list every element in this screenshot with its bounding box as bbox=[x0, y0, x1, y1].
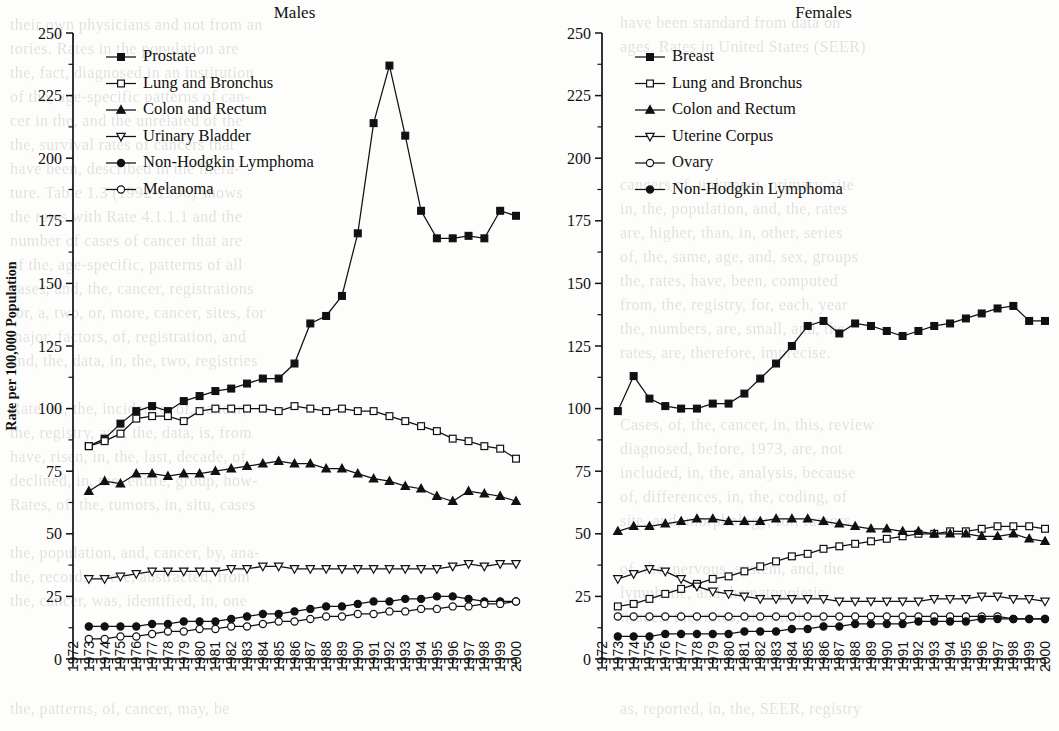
data-point-marker bbox=[291, 403, 298, 410]
data-point-marker bbox=[339, 405, 346, 412]
x-axis-tick-label: 1998 bbox=[476, 641, 492, 672]
legend-item-uterine-corpus[interactable]: Uterine Corpus bbox=[635, 126, 773, 145]
data-point-marker bbox=[497, 445, 504, 452]
legend-item-lung-and-bronchus[interactable]: Lung and Bronchus bbox=[635, 73, 802, 92]
y-axis-tick-label: 225 bbox=[38, 87, 62, 104]
data-point-marker bbox=[338, 613, 345, 620]
data-point-marker bbox=[962, 618, 969, 625]
data-point-marker bbox=[386, 598, 393, 605]
legend-item-melanoma[interactable]: Melanoma bbox=[106, 179, 214, 198]
data-point-marker bbox=[339, 293, 346, 300]
data-point-marker bbox=[480, 563, 488, 571]
data-point-marker bbox=[931, 618, 938, 625]
data-point-marker bbox=[180, 618, 187, 625]
data-point-marker bbox=[354, 230, 361, 237]
x-axis-tick-label: 1995 bbox=[429, 641, 445, 672]
data-point-marker bbox=[180, 418, 187, 425]
data-point-marker bbox=[646, 159, 653, 166]
data-point-marker bbox=[228, 623, 235, 630]
data-point-marker bbox=[677, 576, 685, 584]
legend-item-ovary[interactable]: Ovary bbox=[635, 152, 714, 171]
data-point-marker bbox=[772, 613, 779, 620]
data-point-marker bbox=[694, 405, 701, 412]
legend-item-breast[interactable]: Breast bbox=[635, 46, 715, 65]
y-axis-tick-label: 225 bbox=[567, 87, 591, 104]
x-axis-tick-label: 1993 bbox=[397, 641, 413, 672]
data-point-marker bbox=[212, 625, 219, 632]
data-point-marker bbox=[646, 186, 653, 193]
legend-item-colon-and-rectum[interactable]: Colon and Rectum bbox=[106, 99, 267, 118]
legend-item-colon-and-rectum[interactable]: Colon and Rectum bbox=[635, 99, 796, 118]
legend-symbol bbox=[635, 80, 665, 87]
data-point-marker bbox=[899, 613, 906, 620]
data-point-marker bbox=[196, 625, 203, 632]
legend-item-non-hodgkin-lymphoma[interactable]: Non-Hodgkin Lymphoma bbox=[635, 179, 844, 198]
y-axis-tick-label: 150 bbox=[567, 275, 591, 292]
x-axis-tick-label: 1987 bbox=[302, 641, 318, 672]
x-axis-tick-label: 1996 bbox=[445, 641, 461, 672]
x-axis-tick-label: 2000 bbox=[508, 641, 524, 672]
x-axis-tick-label: 1982 bbox=[752, 641, 768, 672]
data-point-marker bbox=[757, 613, 764, 620]
x-axis-tick-label: 1985 bbox=[271, 641, 287, 672]
data-point-marker bbox=[836, 623, 843, 630]
data-point-marker bbox=[338, 603, 345, 610]
data-point-marker bbox=[678, 585, 685, 592]
data-point-marker bbox=[709, 630, 716, 637]
data-point-marker bbox=[164, 628, 171, 635]
y-axis-tick-label: 75 bbox=[575, 463, 591, 480]
y-axis-tick-label: 100 bbox=[567, 400, 591, 417]
data-point-marker bbox=[693, 630, 700, 637]
data-point-marker bbox=[497, 600, 504, 607]
x-axis-tick-label: 1993 bbox=[926, 641, 942, 672]
data-point-marker bbox=[978, 615, 985, 622]
data-point-marker bbox=[117, 420, 124, 427]
data-point-marker bbox=[118, 54, 125, 61]
legend-label: Lung and Bronchus bbox=[143, 73, 273, 92]
data-point-marker bbox=[386, 413, 393, 420]
data-point-marker bbox=[117, 186, 124, 193]
data-point-marker bbox=[433, 605, 440, 612]
legend-item-lung-and-bronchus[interactable]: Lung and Bronchus bbox=[106, 73, 273, 92]
data-point-marker bbox=[788, 343, 795, 350]
x-axis-tick-label: 1996 bbox=[974, 641, 990, 672]
data-point-marker bbox=[772, 628, 779, 635]
legend-label: Melanoma bbox=[143, 179, 214, 198]
data-point-marker bbox=[868, 538, 875, 545]
x-axis-tick-label: 1998 bbox=[1005, 641, 1021, 672]
y-axis-tick-label: 200 bbox=[38, 150, 62, 167]
data-point-marker bbox=[962, 315, 969, 322]
x-axis-tick-label: 1986 bbox=[287, 641, 303, 672]
data-point-marker bbox=[196, 393, 203, 400]
data-point-marker bbox=[370, 408, 377, 415]
data-point-marker bbox=[1009, 529, 1017, 537]
legend-item-prostate[interactable]: Prostate bbox=[106, 46, 196, 65]
data-point-marker bbox=[307, 605, 314, 612]
data-point-marker bbox=[243, 613, 250, 620]
data-point-marker bbox=[646, 613, 653, 620]
legend-label: Non-Hodgkin Lymphoma bbox=[672, 179, 844, 198]
y-axis-tick-label: 50 bbox=[46, 525, 62, 542]
data-point-marker bbox=[465, 232, 472, 239]
data-point-marker bbox=[788, 625, 795, 632]
data-point-marker bbox=[725, 573, 732, 580]
x-axis-tick-label: 1973 bbox=[610, 641, 626, 672]
data-point-marker bbox=[883, 328, 890, 335]
data-point-marker bbox=[386, 62, 393, 69]
x-axis-tick-label: 1990 bbox=[879, 641, 895, 672]
legend-item-urinary-bladder[interactable]: Urinary Bladder bbox=[106, 126, 251, 145]
data-point-marker bbox=[402, 132, 409, 139]
x-axis-tick-label: 1995 bbox=[958, 641, 974, 672]
legend-symbol bbox=[106, 186, 136, 193]
data-point-marker bbox=[662, 590, 669, 597]
data-point-marker bbox=[149, 403, 156, 410]
legend-label: Uterine Corpus bbox=[672, 126, 773, 145]
data-point-marker bbox=[836, 613, 843, 620]
data-point-marker bbox=[100, 477, 108, 485]
data-point-marker bbox=[291, 360, 298, 367]
data-point-marker bbox=[433, 235, 440, 242]
legend-item-non-hodgkin-lymphoma[interactable]: Non-Hodgkin Lymphoma bbox=[106, 152, 315, 171]
x-axis-tick-label: 1973 bbox=[81, 641, 97, 672]
data-point-marker bbox=[820, 623, 827, 630]
data-point-marker bbox=[417, 605, 424, 612]
